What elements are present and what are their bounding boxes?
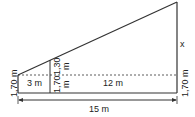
long-base-label: 12 m — [103, 78, 123, 88]
height-diagram: 1,70 m 3 m 1,70 m 1,30 m 12 m 1,70 m x 1… — [0, 0, 195, 117]
arrow-right-icon — [172, 98, 177, 102]
right-height-label: 1,70 m — [180, 69, 190, 97]
short-base-label: 3 m — [27, 78, 42, 88]
hypotenuse-line — [18, 2, 177, 75]
total-base-label: 15 m — [89, 104, 109, 114]
inner-upper-unit: m — [61, 63, 71, 71]
left-height-label: 1,70 m — [9, 69, 19, 97]
inner-lower-unit: m — [61, 81, 71, 89]
arrow-left-icon — [18, 98, 23, 102]
unknown-x-label: x — [180, 39, 185, 49]
